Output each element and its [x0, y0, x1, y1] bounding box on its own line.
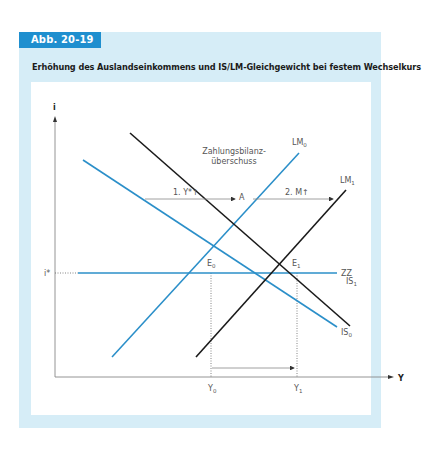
lm0-label: LM0: [292, 138, 307, 148]
point-e0-label: E0: [207, 259, 216, 269]
surplus-label-line1: Zahlungsbilanz-: [202, 147, 266, 156]
is0-label: IS0: [341, 328, 352, 338]
step2-label: 2. M↑: [285, 188, 309, 197]
lm0-curve: [112, 153, 299, 357]
y0-tick-label: Y0: [207, 384, 217, 394]
lm1-label: LM1: [340, 176, 355, 186]
y-axis-arrow-icon: [388, 375, 394, 379]
y1-tick-label: Y1: [293, 384, 302, 394]
point-e1-label: E1: [292, 259, 301, 269]
y-axis-label: Y: [397, 374, 404, 383]
i-axis-arrow-icon: [53, 116, 57, 122]
is1-label: IS1: [346, 277, 357, 287]
i-axis-label: i: [53, 103, 56, 112]
point-a-label: A: [239, 193, 245, 202]
is-lm-diagram: i Y i* 1. Y*↑ 2. M↑ Zahlungsbilanz- über…: [0, 0, 428, 449]
step1-label: 1. Y*↑: [173, 188, 199, 197]
surplus-label-line2: überschuss: [211, 157, 256, 166]
i-star-label: i*: [44, 269, 50, 278]
